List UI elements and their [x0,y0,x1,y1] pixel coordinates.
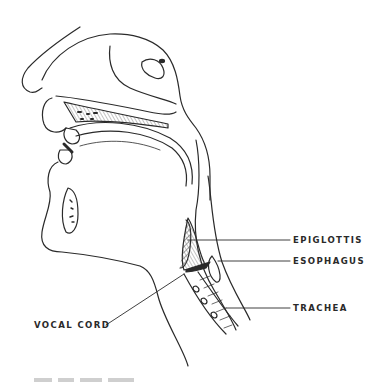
label-esophagus: ESOPHAGUS [293,255,365,266]
label-trachea: TRACHEA [293,302,348,313]
anatomy-diagram: EPIGLOTTIS ESOPHAGUS TRACHEA VOCAL CORD [0,0,375,386]
figure-caption-cut-off [34,378,154,386]
label-vocal-cord: VOCAL CORD [34,319,110,330]
label-epiglottis: EPIGLOTTIS [293,234,363,245]
vocal-cord-leader [106,274,184,325]
face-outline [22,27,80,93]
